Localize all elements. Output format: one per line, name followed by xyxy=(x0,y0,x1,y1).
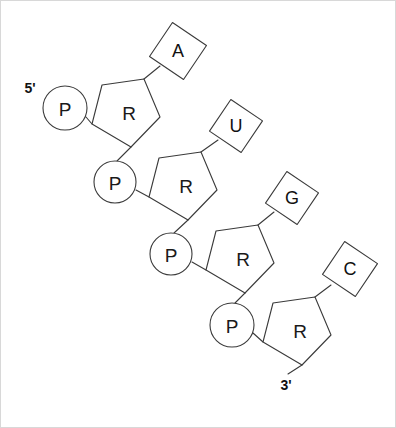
ribose-label-2: R xyxy=(179,176,193,197)
bond-r2-to-p3 xyxy=(174,220,188,233)
three-prime-label: 3' xyxy=(280,377,291,393)
phosphate-label-4: P xyxy=(226,316,239,337)
bond-p2-to-r2 xyxy=(136,190,149,197)
ribose-label-4: R xyxy=(293,321,307,342)
base-label-u: U xyxy=(230,116,243,136)
ribose-4: R xyxy=(263,297,331,365)
rna-backbone-figure: RRRR PPPP AUGC 5' 3' xyxy=(0,0,396,428)
phosphate-1: P xyxy=(43,86,87,130)
ribose-label-1: R xyxy=(122,103,136,124)
bond-r2-to-base-u xyxy=(201,140,218,152)
bond-r4-to-three-prime xyxy=(288,365,302,374)
phosphate-label-1: P xyxy=(59,99,72,120)
phosphate-label-2: P xyxy=(109,173,122,194)
ribose-3: R xyxy=(206,225,274,293)
base-u: U xyxy=(204,94,267,157)
phosphate-2: P xyxy=(94,161,136,203)
ribose-1: R xyxy=(92,79,160,147)
bond-r1-to-base-a xyxy=(144,66,160,79)
bond-p1-to-r1 xyxy=(86,117,92,124)
ribose-label-3: R xyxy=(236,249,250,270)
phosphate-label-3: P xyxy=(165,245,178,266)
base-a: A xyxy=(144,17,212,85)
base-g: G xyxy=(260,166,323,229)
bond-r4-to-base-c xyxy=(315,285,331,297)
bond-r1-to-p2 xyxy=(117,147,131,161)
five-prime-label: 5' xyxy=(24,80,35,96)
bond-r3-to-p4 xyxy=(235,293,245,303)
base-label-a: A xyxy=(172,41,184,61)
phosphate-4: P xyxy=(210,303,254,347)
phosphate-3: P xyxy=(150,233,192,275)
bond-p4-to-r4 xyxy=(253,333,263,342)
canvas-border xyxy=(1,1,396,428)
bond-p3-to-r3 xyxy=(192,262,206,270)
rna-diagram-canvas: RRRR PPPP AUGC 5' 3' xyxy=(0,0,396,428)
ribose-2: R xyxy=(149,152,217,220)
base-c: C xyxy=(317,236,383,302)
bond-r3-to-base-g xyxy=(258,212,274,225)
base-label-c: C xyxy=(344,259,357,279)
base-label-g: G xyxy=(285,188,299,208)
